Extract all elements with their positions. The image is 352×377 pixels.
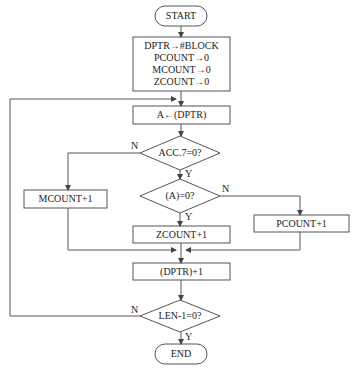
init-line-2: PCOUNT→0: [154, 52, 209, 64]
load-box: A←(DPTR): [133, 106, 230, 124]
pcount-label: PCOUNT+1: [276, 218, 327, 230]
len-label: LEN-1=0?: [159, 310, 202, 322]
aeq0-label: (A)=0?: [166, 190, 195, 202]
mcount-box: MCOUNT+1: [24, 190, 107, 208]
len-no-label: N: [131, 304, 138, 315]
acc7-no-label: N: [131, 140, 138, 151]
end-terminal: END: [155, 344, 207, 364]
pcount-box: PCOUNT+1: [254, 215, 349, 232]
init-line-1: DPTR→#BLOCK: [144, 40, 218, 52]
end-label: END: [171, 348, 192, 360]
acc7-label: ACC.7=0?: [158, 147, 201, 159]
mcount-label: MCOUNT+1: [39, 193, 93, 205]
init-line-3: MCOUNT→0: [152, 64, 210, 76]
incptr-box: (DPTR)+1: [133, 263, 230, 280]
len-yes-label: Y: [185, 331, 192, 342]
aeq0-no-label: N: [222, 183, 229, 194]
load-label: A←(DPTR): [157, 109, 206, 121]
start-label: START: [166, 10, 196, 22]
zcount-box: ZCOUNT+1: [133, 226, 230, 243]
aeq0-decision: (A)=0?: [140, 179, 220, 213]
init-box: DPTR→#BLOCK PCOUNT→0 MCOUNT→0 ZCOUNT→0: [133, 37, 230, 91]
acc7-yes-label: Y: [185, 168, 192, 179]
start-terminal: START: [155, 6, 207, 26]
zcount-label: ZCOUNT+1: [156, 229, 207, 241]
init-line-4: ZCOUNT→0: [154, 76, 210, 88]
len-decision: LEN-1=0?: [140, 300, 220, 332]
aeq0-yes-label: Y: [185, 211, 192, 222]
incptr-label: (DPTR)+1: [160, 266, 203, 278]
acc7-decision: ACC.7=0?: [140, 136, 220, 170]
